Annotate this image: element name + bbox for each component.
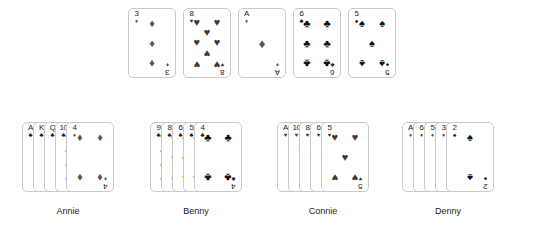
hand-card[interactable]: 4♣4♣♣♣♣♣ (194, 122, 242, 192)
player-name-label: Connie (277, 206, 369, 216)
community-card[interactable]: 6♣6♣♣♣♣♣♣♣ (293, 8, 341, 78)
card-pip: ♥ (352, 172, 359, 183)
card-pip: ♣ (303, 38, 310, 49)
card-pip: ♥ (194, 37, 201, 48)
card-pip: ♥ (332, 131, 339, 142)
player-name-label: Denny (402, 206, 494, 216)
card-pip: ♥ (204, 27, 211, 38)
community-card[interactable]: 3♦3♦♦♦♦ (128, 8, 176, 78)
card-pip: ♥ (214, 16, 221, 27)
card-pip: ♠ (467, 131, 473, 142)
card-pip: ♦ (149, 38, 155, 49)
pip-grid: ♠♠ (447, 123, 493, 191)
card-pip: ♥ (214, 59, 221, 70)
card-pip: ♣ (303, 58, 310, 69)
pip-grid: ♥♥♥♥♥ (322, 123, 368, 191)
card-pip: ♣ (204, 172, 211, 183)
card-pip: ♥ (194, 59, 201, 70)
card-pip: ♠ (379, 58, 385, 69)
card-pip: ♥ (204, 48, 211, 59)
card-pip: ♣ (324, 17, 331, 28)
card-pip: ♠ (467, 172, 473, 183)
card-pip: ♦ (77, 131, 83, 142)
card-pip: ♣ (303, 17, 310, 28)
card-pip: ♣ (324, 58, 331, 69)
pip-grid: ♥♥♥♥♥♥♥♥ (184, 9, 230, 77)
card-pip: ♦ (97, 172, 103, 183)
card-pip: ♠ (359, 58, 365, 69)
ace-center-pip: ♦ (259, 37, 266, 50)
hand-card[interactable]: 2♠2♠♠♠ (446, 122, 494, 192)
card-pip: ♦ (149, 58, 155, 69)
hand-card[interactable]: 4♦4♦♦♦♦♦ (66, 122, 114, 192)
pip-grid: ♣♣♣♣ (195, 123, 241, 191)
card-pip: ♣ (324, 38, 331, 49)
card-rank: A (241, 10, 252, 18)
card-pip: ♠ (359, 17, 365, 28)
playing-card-figure: 3♦3♦♦♦♦8♥8♥♥♥♥♥♥♥♥♥A♦A♦♦6♣6♣♣♣♣♣♣♣5♠5♠♠♠… (0, 0, 541, 233)
community-card[interactable]: 5♠5♠♠♠♠♠♠ (348, 8, 396, 78)
hand-card[interactable]: 5♥5♥♥♥♥♥♥ (321, 122, 369, 192)
diamond-suit-icon: ♦ (272, 62, 283, 68)
pip-grid: ♣♣♣♣♣♣ (294, 9, 340, 77)
pip-grid: ♦♦♦♦ (67, 123, 113, 191)
card-pip: ♥ (214, 37, 221, 48)
card-rank: A (272, 68, 283, 76)
card-pip: ♥ (332, 172, 339, 183)
card-pip: ♣ (225, 131, 232, 142)
card-pip: ♦ (77, 172, 83, 183)
card-pip: ♦ (97, 131, 103, 142)
community-card[interactable]: A♦A♦♦ (238, 8, 286, 78)
diamond-suit-icon: ♦ (241, 18, 252, 24)
player-name-label: Annie (22, 206, 114, 216)
card-pip: ♥ (342, 152, 349, 163)
player-name-label: Benny (150, 206, 242, 216)
pip-grid: ♦♦♦ (129, 9, 175, 77)
card-pip: ♥ (352, 131, 359, 142)
card-pip: ♠ (379, 17, 385, 28)
card-pip: ♣ (204, 131, 211, 142)
card-index-bottom: A♦ (272, 62, 283, 76)
card-index-top: A♦ (241, 10, 252, 24)
card-pip: ♣ (225, 172, 232, 183)
pip-grid: ♠♠♠♠♠ (349, 9, 395, 77)
card-pip: ♥ (194, 16, 201, 27)
card-pip: ♠ (369, 38, 375, 49)
card-pip: ♦ (149, 17, 155, 28)
community-card[interactable]: 8♥8♥♥♥♥♥♥♥♥♥ (183, 8, 231, 78)
